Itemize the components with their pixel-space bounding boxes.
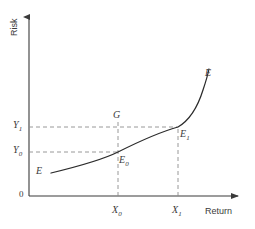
y-tick-y0-sub: 0 (19, 150, 23, 158)
y-tick-y1-sub: 1 (19, 125, 23, 133)
point-label-g: G (113, 110, 120, 120)
x-axis-title: Return (205, 206, 232, 216)
point-e0-sub: 0 (125, 160, 129, 168)
x-tick-x0-sub: 0 (118, 210, 122, 218)
curve-start-label: E (36, 166, 42, 176)
curve-end-label: E (205, 68, 211, 78)
x-tick-label-x1: X1 (172, 205, 182, 218)
point-label-e0: E0 (119, 155, 129, 168)
x-tick-label-x0: X0 (112, 205, 122, 218)
point-label-e1: E1 (180, 129, 190, 142)
x-tick-x1-sub: 1 (178, 210, 182, 218)
y-tick-label-y0: Y0 (13, 145, 22, 158)
point-g-base: G (113, 109, 120, 120)
origin-label: 0 (19, 190, 24, 199)
y-tick-label-y1: Y1 (13, 120, 22, 133)
y-axis-title: Risk (9, 19, 19, 37)
ee-curve (51, 69, 209, 173)
point-e1-sub: 1 (186, 134, 190, 142)
risk-return-figure: Risk Return 0 Y1 Y0 X0 X1 E E E0 E1 G (0, 0, 255, 229)
figure-canvas (0, 0, 255, 229)
